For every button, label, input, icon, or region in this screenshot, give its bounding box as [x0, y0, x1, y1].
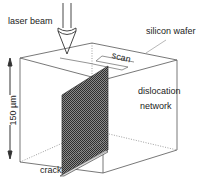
silicon-wafer-label: silicon wafer — [146, 27, 196, 36]
wafer-leader-line — [146, 40, 166, 53]
laser-beam-icon — [58, 3, 76, 54]
dislocation-plane — [62, 66, 108, 175]
laser-beam-label: laser beam — [8, 17, 53, 26]
network-label: network — [140, 102, 172, 111]
crack-label: crack — [40, 166, 62, 175]
dislocation-label: dislocation — [138, 87, 181, 96]
scale-label: 150 µm — [9, 96, 18, 126]
